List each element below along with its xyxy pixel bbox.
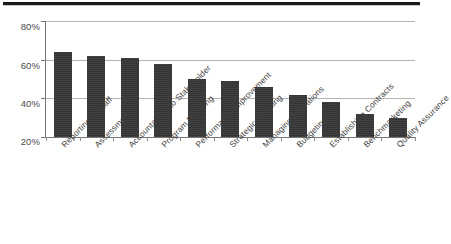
x-axis-label: Managing Operations: [261, 84, 326, 149]
x-axis-label: Establishing Contracts: [328, 82, 396, 150]
x-axis-label: Budgeting: [295, 115, 329, 149]
